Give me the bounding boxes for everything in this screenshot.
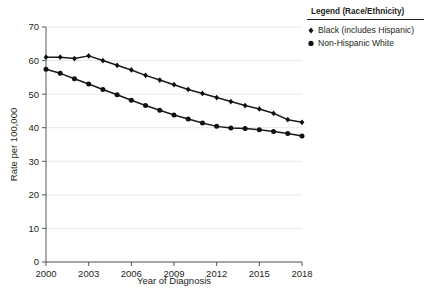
y-tick-label: 10: [28, 223, 39, 234]
data-point-marker: [58, 54, 63, 60]
data-point-marker: [214, 124, 219, 129]
data-point-marker: [129, 98, 134, 103]
data-point-marker: [200, 121, 205, 126]
data-point-marker: [100, 87, 105, 92]
legend-item-1[interactable]: Black (includes Hispanic): [309, 25, 415, 35]
data-point-marker: [58, 71, 63, 76]
x-tick-label: 2003: [78, 268, 99, 279]
data-point-marker: [271, 129, 276, 134]
data-point-marker: [228, 126, 233, 131]
data-point-marker: [257, 106, 262, 112]
data-point-marker: [115, 92, 120, 97]
data-point-marker: [86, 82, 91, 87]
series-group: [44, 53, 305, 139]
y-tick-label: 60: [28, 55, 39, 66]
series-line: [46, 56, 302, 122]
x-tick-label: 2015: [249, 268, 270, 279]
circle-marker-icon: [308, 41, 313, 46]
data-point-marker: [157, 77, 162, 83]
data-point-marker: [285, 131, 290, 136]
y-tick-label: 70: [28, 21, 39, 32]
y-tick-label: 50: [28, 89, 39, 100]
legend-group: Legend (Race/Ethnicity)Black (includes H…: [307, 7, 424, 48]
data-point-marker: [101, 58, 106, 64]
data-point-marker: [243, 126, 248, 131]
legend-item-label: Black (includes Hispanic): [318, 25, 414, 35]
gridlines-group: [46, 27, 302, 262]
y-tick-label: 30: [28, 156, 39, 167]
x-tick-label: 2018: [291, 268, 312, 279]
data-point-marker: [200, 91, 205, 97]
data-point-marker: [186, 87, 191, 93]
data-point-marker: [300, 134, 305, 139]
data-point-marker: [186, 116, 191, 121]
x-axis-title: Year of Diagnosis: [137, 275, 211, 286]
y-tick-label: 40: [28, 122, 39, 133]
data-point-marker: [229, 99, 234, 105]
chart-canvas: 010203040506070 200020032006200920122015…: [0, 0, 429, 295]
data-point-marker: [44, 54, 49, 60]
rate-by-race-ethnicity-line-chart: 010203040506070 200020032006200920122015…: [0, 0, 429, 295]
data-point-marker: [172, 112, 177, 117]
y-tick-label: 0: [34, 256, 39, 267]
data-point-marker: [143, 103, 148, 108]
legend-item-2[interactable]: Non-Hispanic White: [308, 38, 394, 48]
data-point-marker: [271, 110, 276, 116]
data-point-marker: [243, 103, 248, 109]
data-point-marker: [86, 53, 91, 59]
y-tick-label: 20: [28, 189, 39, 200]
diamond-marker-icon: [309, 27, 314, 33]
y-axis-title: Rate per 100,000: [8, 108, 19, 181]
data-point-marker: [44, 67, 49, 72]
data-point-marker: [157, 108, 162, 113]
y-axis-group: 010203040506070: [28, 21, 46, 267]
series-line: [46, 69, 302, 136]
data-point-marker: [285, 117, 290, 123]
data-point-marker: [257, 127, 262, 132]
legend-title: Legend (Race/Ethnicity): [311, 7, 405, 16]
x-tick-label: 2000: [35, 268, 56, 279]
legend-item-label: Non-Hispanic White: [318, 38, 394, 48]
data-point-marker: [129, 67, 134, 73]
data-point-marker: [172, 82, 177, 88]
data-point-marker: [214, 95, 219, 101]
data-point-marker: [300, 119, 305, 125]
data-point-marker: [143, 72, 148, 78]
data-point-marker: [72, 76, 77, 81]
data-point-marker: [115, 62, 120, 68]
